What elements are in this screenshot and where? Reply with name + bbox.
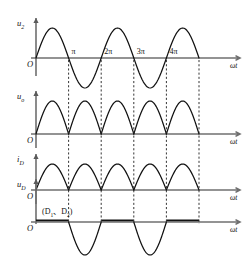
waveform-uo-hump-0	[36, 101, 69, 134]
tick-label-3pi: 3π	[137, 47, 145, 56]
y-axis-arrow-iD	[33, 154, 38, 159]
x-axis-arrow-iD	[232, 188, 240, 193]
origin-label-uo: O	[27, 135, 33, 145]
tick-label-4pi: 4π	[169, 47, 177, 56]
waveform-iD-hump-2	[101, 164, 134, 190]
diode-annotation: (D1、D2)	[42, 207, 73, 218]
x-axis-label-uo: ωt	[230, 137, 238, 146]
waveform-iD-hump-4	[166, 164, 199, 190]
x-axis-arrow-uD	[232, 220, 240, 225]
waveform-uD-hump-3	[134, 222, 167, 255]
x-axis-label-uD: ωt	[230, 225, 238, 234]
axis-label-uo: uo	[17, 91, 24, 103]
waveform-uD-hump-1	[69, 222, 102, 255]
waveform-uo-hump-3	[134, 101, 167, 134]
waveform-iD-hump-3	[134, 164, 167, 190]
origin-label-u2: O	[27, 59, 33, 69]
tick-label-1pi: π	[72, 47, 76, 56]
waveform-iD-hump-1	[69, 164, 102, 190]
x-axis-arrow-u2	[232, 56, 240, 61]
tick-label-2pi: 2π	[104, 47, 112, 56]
axis-label-u2: u2	[17, 18, 24, 30]
axis-label-iD: iD	[17, 154, 24, 166]
waveform-figure: u2OωtuoOωtiDOωtuDOωtπ2π3π4π(D1、D2)	[0, 0, 250, 264]
x-axis-arrow-uo	[232, 132, 240, 137]
waveform-uo-hump-1	[69, 101, 102, 134]
axis-label-uD: uD	[17, 179, 26, 191]
waveform-uo-hump-4	[166, 101, 199, 134]
y-axis-arrow-uD	[33, 179, 38, 184]
waveform-iD-hump-0	[36, 164, 69, 190]
x-axis-label-u2: ωt	[230, 61, 238, 70]
x-axis-label-iD: ωt	[230, 193, 238, 202]
y-axis-arrow-uo	[33, 91, 38, 96]
waveform-canvas: u2OωtuoOωtiDOωtuDOωtπ2π3π4π(D1、D2)	[0, 0, 250, 264]
origin-label-uD: O	[27, 223, 33, 233]
y-axis-arrow-u2	[33, 18, 38, 23]
waveform-uo-hump-2	[101, 101, 134, 134]
origin-label-iD: O	[27, 191, 33, 201]
